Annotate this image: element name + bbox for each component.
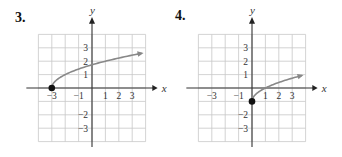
y-axis-label: y (89, 4, 95, 16)
y-tick-label: 3 (83, 43, 88, 53)
x-tick-label: −3 (207, 91, 217, 101)
y-tick-label: −2 (238, 110, 248, 120)
x-tick-label: 1 (263, 91, 268, 101)
start-point-dot (249, 98, 256, 105)
y-tick-label: −2 (78, 110, 88, 120)
y-axis-arrow-icon (89, 17, 95, 24)
graph-3: xy−3−1123321−2−3 (26, 4, 166, 147)
y-tick-label: 1 (243, 70, 248, 80)
y-tick-label: 2 (243, 57, 248, 67)
start-point-dot (49, 85, 56, 92)
y-tick-label: −3 (78, 124, 88, 134)
y-tick-label: −3 (238, 124, 248, 134)
x-axis-label: x (161, 82, 167, 94)
x-axis-label: x (321, 82, 327, 94)
plots-canvas: xy−3−1123321−2−3xy−3−1123321−2−3 (0, 0, 342, 157)
y-tick-label: 1 (83, 70, 88, 80)
x-tick-label: 2 (116, 91, 121, 101)
y-tick-label: 2 (83, 57, 88, 67)
x-tick-label: −1 (74, 91, 84, 101)
x-axis-arrow-icon (312, 85, 317, 91)
x-tick-label: −3 (47, 91, 57, 101)
graph-4: xy−3−1123321−2−3 (186, 4, 326, 147)
x-axis-arrow-icon (152, 85, 157, 91)
x-tick-label: 3 (130, 91, 135, 101)
x-tick-label: 1 (103, 91, 108, 101)
y-tick-label: 3 (243, 43, 248, 53)
y-axis-label: y (249, 4, 255, 16)
x-tick-label: −1 (234, 91, 244, 101)
curve-arrow-icon (137, 51, 143, 56)
x-tick-label: 3 (290, 91, 295, 101)
y-axis-arrow-icon (249, 17, 255, 24)
x-tick-label: 2 (276, 91, 281, 101)
